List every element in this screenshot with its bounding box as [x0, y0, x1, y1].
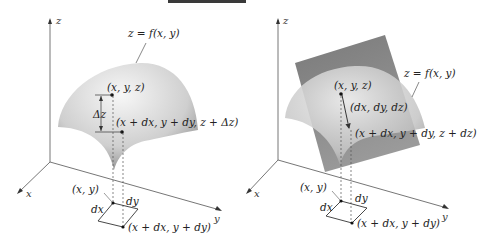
x-axis-label: x [254, 188, 260, 199]
x-axis-label: x [26, 188, 32, 199]
vector-label: (dx, dy, dz) [350, 101, 408, 113]
point-xyz-label: (x, y, z) [334, 79, 372, 91]
point-shifted-label: (x + dx, y + dy, z + Δz) [116, 116, 238, 128]
y-axis-label: y [213, 213, 220, 224]
dx-label: dx [320, 201, 333, 213]
z-axis-label: z [55, 15, 62, 26]
point-shifted-label: (x + dx, y + dy, z + dz) [355, 127, 477, 139]
differential-diagram: z x y z = f(x, y) (x, y, z) (x + dx, y +… [0, 0, 485, 248]
surface-label: z = f(x, y) [127, 27, 180, 39]
base-shifted-label: (x + dx, y + dy) [128, 221, 211, 233]
dy-label: dy [126, 195, 140, 207]
z-axis-label: z [282, 15, 289, 26]
dy-label: dy [355, 192, 369, 204]
right-panel: z x y z = f(x, y) (x, y, z) (dx, dy, dz)… [246, 15, 477, 229]
base-shifted-label: (x + dx, y + dy) [357, 217, 440, 229]
base-point-label: (x, y) [72, 183, 99, 195]
surface-label: z = f(x, y) [403, 67, 456, 79]
dx-label: dx [91, 203, 104, 215]
x-axis [248, 160, 278, 192]
y-axis-label: y [441, 211, 448, 222]
delta-z-label: Δz [92, 108, 107, 120]
x-axis [19, 162, 50, 192]
point-xyz-label: (x, y, z) [107, 81, 145, 93]
left-panel: z x y z = f(x, y) (x, y, z) (x + dx, y +… [17, 15, 238, 233]
base-point-label: (x, y) [300, 181, 327, 193]
